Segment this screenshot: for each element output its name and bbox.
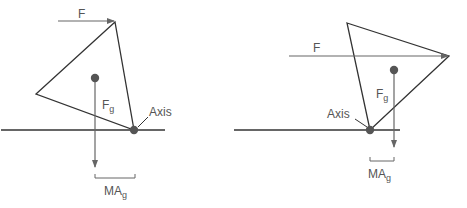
axis-dot [130,126,138,134]
moment-arm-label: MAg [368,167,391,183]
center-of-gravity-dot [390,66,398,74]
gravity-label: Fg [102,98,114,114]
diagram-right: F Fg Axis MAg [234,23,449,183]
diagram-left: F Fg Axis MAg [1,7,172,200]
center-of-gravity-dot [91,74,99,82]
moment-arm-bracket [370,157,394,161]
moment-arm-bracket [95,174,135,178]
gravity-label: Fg [376,87,388,103]
axis-dot [366,126,374,134]
axis-leader [355,119,367,127]
triangle-body [347,23,449,130]
force-label: F [313,41,320,55]
axis-leader [138,117,148,127]
axis-label: Axis [327,107,350,121]
moment-arm-label: MAg [104,184,127,200]
axis-label: Axis [149,105,172,119]
lever-diagrams: F Fg Axis MAg F Fg Axis MAg [0,0,467,208]
force-label: F [78,7,85,21]
triangle-body [36,22,134,130]
